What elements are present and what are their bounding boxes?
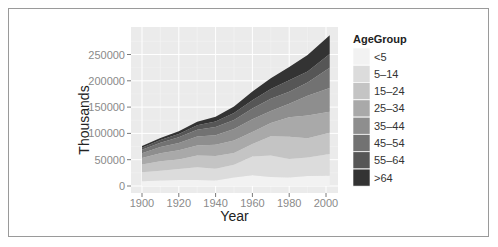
legend-label: 15–24 — [374, 85, 405, 97]
y-axis: 050000100000150000200000250000 — [88, 49, 131, 193]
y-tick-label: 100000 — [88, 127, 125, 139]
y-axis-title: Thousands — [76, 85, 92, 154]
legend-label: 25–34 — [374, 102, 405, 114]
legend-swatch — [353, 135, 370, 152]
legend-swatch — [353, 117, 370, 134]
legend-swatch — [353, 65, 370, 82]
y-tick-label: 150000 — [88, 101, 125, 113]
legend-label: <5 — [374, 51, 387, 63]
y-tick-label: 250000 — [88, 49, 125, 61]
legend-label: 5–14 — [374, 68, 398, 80]
legend-swatch — [353, 152, 370, 169]
legend-swatch — [353, 83, 370, 100]
x-tick-label: 1980 — [277, 197, 301, 209]
legend-label: 35–44 — [374, 120, 405, 132]
legend-swatch — [353, 100, 370, 117]
legend-label: 55–64 — [374, 154, 405, 166]
legend-items: <55–1415–2425–3435–4445–5455–64>64 — [353, 48, 405, 186]
legend: AgeGroup <55–1415–2425–3435–4445–5455–64… — [353, 33, 407, 186]
stacked-area-chart: 050000100000150000200000250000 190019201… — [0, 0, 498, 247]
legend-swatch — [353, 169, 370, 186]
x-axis: 190019201940196019802000 — [130, 193, 338, 209]
legend-title: AgeGroup — [353, 33, 407, 45]
legend-label: >64 — [374, 172, 393, 184]
x-tick-label: 2000 — [314, 197, 338, 209]
legend-swatch — [353, 48, 370, 65]
x-axis-title: Year — [220, 208, 249, 224]
legend-label: 45–54 — [374, 137, 405, 149]
y-tick-label: 200000 — [88, 75, 125, 87]
x-tick-label: 1920 — [167, 197, 191, 209]
x-tick-label: 1900 — [130, 197, 154, 209]
y-tick-label: 0 — [119, 180, 125, 192]
y-tick-label: 50000 — [94, 154, 125, 166]
